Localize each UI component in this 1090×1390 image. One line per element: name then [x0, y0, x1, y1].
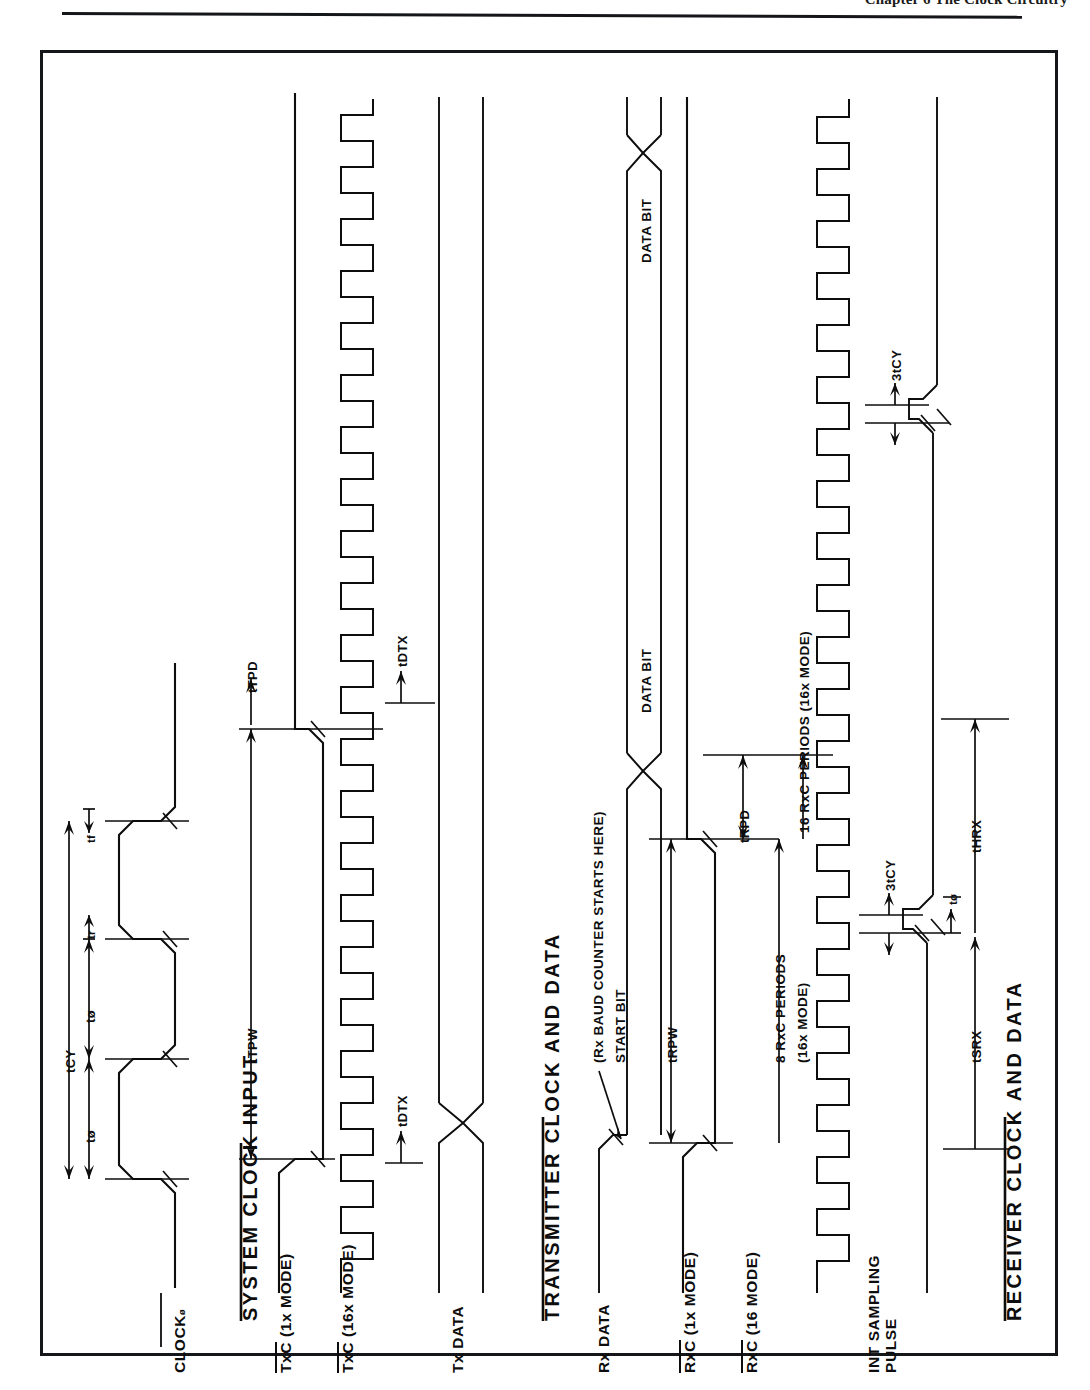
timing-label-tphi-high: tø [83, 1010, 98, 1023]
section-title-transmitter-clock-and-data: TRANSMITTER CLOCK AND DATA [541, 932, 564, 1321]
timing-label-tphi-rx: tø [947, 894, 959, 905]
timing-label-tsrx: tSRX [969, 1030, 984, 1063]
signal-label-clock: CLOCKø [171, 1309, 189, 1373]
signal-label-rx-data: Rx DATA [595, 1304, 613, 1373]
annotation-start-bit: START BIT [613, 989, 628, 1063]
signal-label-txc-1x: TxC (1x MODE) [277, 1253, 295, 1373]
annotation-8-rxc-periods: 8 RxC PERIODS [773, 954, 788, 1063]
annotation-data-bit-2: DATA BIT [639, 199, 654, 264]
timing-label-trpw: tRPW [665, 1027, 680, 1063]
timing-label-3tcy-lower: 3tCY [883, 860, 898, 891]
timing-label-3tcy-upper: 3tCY [889, 350, 904, 381]
timing-label-tdtx-lower: tDTX [395, 1095, 410, 1127]
timing-diagram-figure: CLOCKø SYSTEM CLOCK INPUT tCY tø tø tr t… [40, 50, 1058, 1356]
timing-label-tcy: tCY [63, 1049, 78, 1073]
section-title-system-clock-input: SYSTEM CLOCK INPUT [239, 1053, 262, 1321]
signal-label-rxc-16x: RxC (16 MODE) [743, 1251, 761, 1373]
timing-label-tr: tr [85, 930, 97, 939]
annotation-data-bit-1: DATA BIT [639, 649, 654, 714]
signal-label-rxc-1x: RxC (1x MODE) [681, 1251, 699, 1373]
annotation-16-rxc-periods: 16 RxC PERIODS (16x MODE) [797, 631, 812, 833]
timing-label-thrx: tHRX [969, 820, 984, 853]
timing-label-ttpd: tTPD [245, 661, 260, 693]
section-title-receiver-clock-and-data: RECEIVER CLOCK AND DATA [1003, 981, 1026, 1321]
timing-label-tdtx-upper: tDTX [395, 635, 410, 667]
timing-label-trpd: tRPD [737, 810, 752, 843]
timing-label-tphi-low: tø [83, 1130, 98, 1143]
annotation-8-rxc-periods-mode: (16x MODE) [795, 982, 810, 1063]
page-header-title: Chapter 6 The Clock Circuitry [865, 0, 1068, 8]
timing-label-ttpw: tTPW [245, 1028, 260, 1063]
signal-label-txc-16x: TxC (16x MODE) [339, 1244, 357, 1373]
signal-label-tx-data: Tx DATA [449, 1306, 467, 1373]
annotation-rx-baud-counter: (Rx BAUD COUNTER STARTS HERE) [591, 811, 606, 1063]
timing-label-tf: tf [85, 835, 97, 843]
signal-label-int-sampling-pulse: INT SAMPLINGPULSE [865, 1255, 899, 1373]
